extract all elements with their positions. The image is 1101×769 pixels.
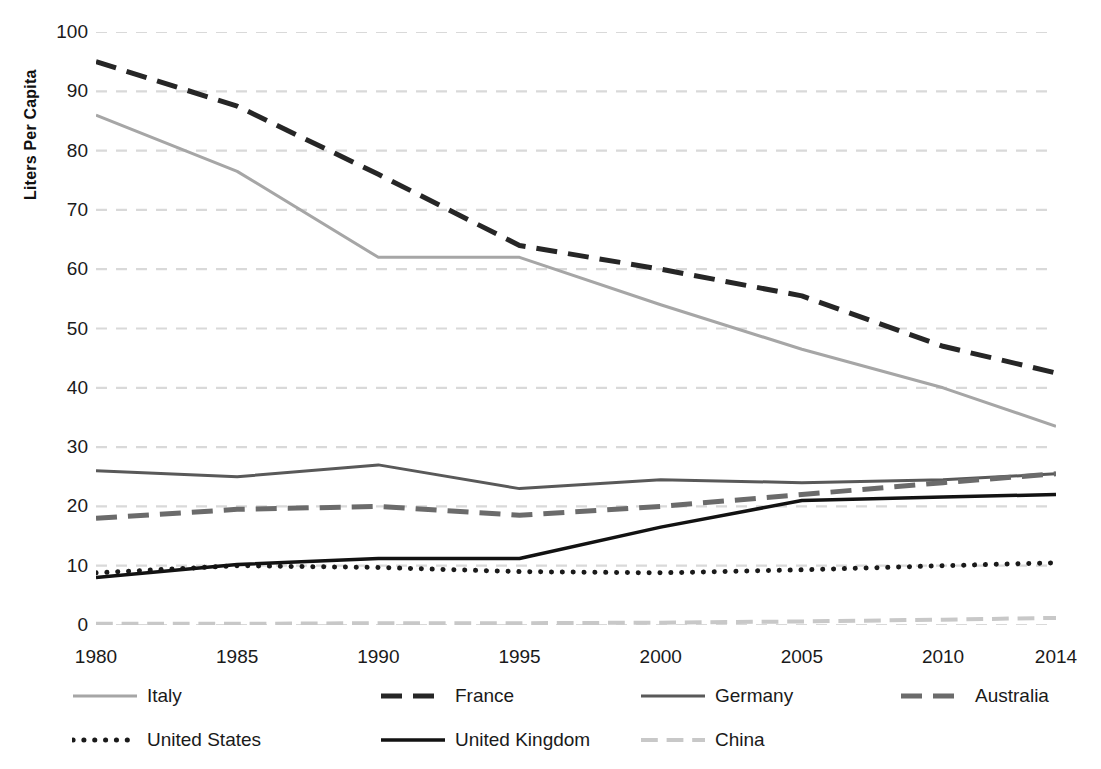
legend-label: United States	[147, 729, 261, 751]
x-tick-label: 1995	[498, 646, 540, 668]
legend-item-united-states[interactable]: United States	[72, 720, 261, 760]
series-line-france	[96, 62, 1056, 373]
legend-label: United Kingdom	[455, 729, 590, 751]
legend-label: France	[455, 685, 514, 707]
plot-area	[96, 32, 1056, 625]
y-tick-label: 50	[32, 318, 88, 340]
y-tick-label: 80	[32, 140, 88, 162]
legend-label: Germany	[715, 685, 793, 707]
series-line-china	[96, 618, 1056, 624]
legend-row: United StatesUnited KingdomChina	[0, 720, 1101, 760]
x-tick-label: 2014	[1035, 646, 1077, 668]
legend-swatch-icon	[380, 733, 446, 747]
x-tick-label: 1985	[216, 646, 258, 668]
chart-legend: ItalyFranceGermanyAustraliaUnited States…	[0, 676, 1101, 769]
legend-label: Australia	[975, 685, 1049, 707]
y-tick-label: 40	[32, 377, 88, 399]
y-axis-tick-labels: 0102030405060708090100	[32, 0, 88, 640]
legend-swatch-icon	[640, 733, 706, 747]
series-svg	[96, 32, 1056, 625]
x-tick-label: 1980	[75, 646, 117, 668]
y-tick-label: 60	[32, 258, 88, 280]
y-tick-label: 70	[32, 199, 88, 221]
y-tick-label: 20	[32, 495, 88, 517]
legend-swatch-icon	[900, 689, 966, 703]
legend-item-australia[interactable]: Australia	[900, 676, 1049, 716]
x-tick-label: 2005	[781, 646, 823, 668]
legend-item-france[interactable]: France	[380, 676, 514, 716]
legend-row: ItalyFranceGermanyAustralia	[0, 676, 1101, 716]
y-tick-label: 0	[32, 614, 88, 636]
series-line-italy	[96, 115, 1056, 426]
x-tick-label: 2000	[640, 646, 682, 668]
legend-item-italy[interactable]: Italy	[72, 676, 182, 716]
legend-item-united-kingdom[interactable]: United Kingdom	[380, 720, 590, 760]
x-tick-label: 1990	[357, 646, 399, 668]
y-tick-label: 30	[32, 436, 88, 458]
legend-swatch-icon	[72, 733, 138, 747]
x-axis-tick-labels: 19801985199019952000200520102014	[0, 640, 1101, 672]
chart-canvas: Liters Per Capita 0102030405060708090100…	[0, 0, 1101, 769]
y-tick-label: 100	[32, 21, 88, 43]
legend-item-china[interactable]: China	[640, 720, 765, 760]
x-tick-label: 2010	[922, 646, 964, 668]
legend-label: China	[715, 729, 765, 751]
legend-swatch-icon	[72, 689, 138, 703]
legend-swatch-icon	[640, 689, 706, 703]
y-tick-label: 90	[32, 80, 88, 102]
legend-label: Italy	[147, 685, 182, 707]
y-tick-label: 10	[32, 555, 88, 577]
legend-item-germany[interactable]: Germany	[640, 676, 793, 716]
legend-swatch-icon	[380, 689, 446, 703]
